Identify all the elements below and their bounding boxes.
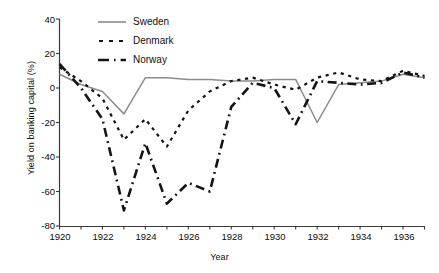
chart-figure: Yield on banking capital (%) 40 20 0 -20… <box>0 0 439 273</box>
data-lines <box>60 64 425 211</box>
series-line-norway <box>60 64 425 211</box>
series-line-denmark <box>60 67 425 146</box>
plot-area <box>0 0 439 273</box>
axis-spines <box>56 19 425 230</box>
series-line-sweden <box>60 74 425 122</box>
